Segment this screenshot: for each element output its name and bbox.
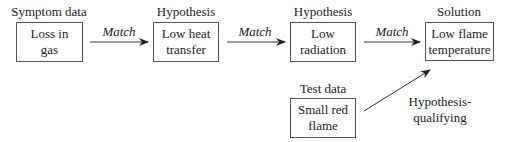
hyp1-text-line2: transfer [166, 42, 206, 58]
hyp2-box: Low radiation [290, 22, 356, 62]
edge-label-match-2: Match [230, 24, 280, 40]
solution-category-label: Solution [416, 4, 502, 20]
solution-text-line2: temperature [428, 42, 490, 58]
hyp2-category-label: Hypothesis [280, 4, 366, 20]
symptom-text-line1: Loss in [31, 26, 69, 42]
solution-box: Low flame temperature [425, 22, 494, 61]
edge-label-hypothesis-qualifying: Hypothesis- qualifying [395, 94, 485, 126]
edge-label-hq-line1: Hypothesis- [395, 94, 485, 110]
hyp1-box: Low heat transfer [153, 22, 219, 62]
solution-text-line1: Low flame [431, 26, 488, 42]
hyp2-text-line2: radiation [300, 42, 346, 58]
test-text-line1: Small red [298, 102, 348, 118]
edge-label-match-1: Match [94, 24, 144, 40]
test-text-line2: flame [308, 118, 338, 134]
symptom-category-label: Symptom data [6, 4, 92, 20]
test-category-label: Test data [280, 81, 366, 97]
test-box: Small red flame [290, 98, 356, 138]
hyp1-category-label: Hypothesis [143, 4, 229, 20]
edge-label-match-3: Match [367, 24, 417, 40]
hyp2-text-line1: Low [311, 26, 335, 42]
symptom-box: Loss in gas [16, 22, 83, 62]
hyp1-text-line1: Low heat [162, 26, 211, 42]
edge-label-hq-line2: qualifying [395, 110, 485, 126]
symptom-text-line2: gas [41, 42, 58, 58]
